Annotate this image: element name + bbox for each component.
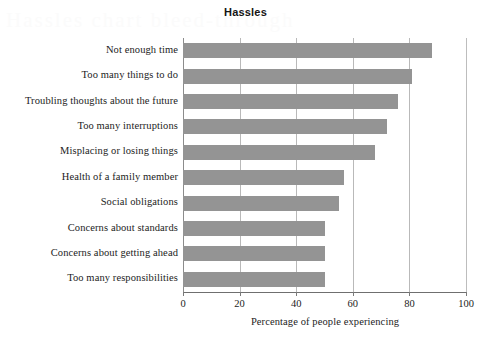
bar [183, 43, 432, 58]
bar [183, 246, 325, 261]
category-label: Misplacing or losing things [2, 145, 178, 156]
x-tick-label-100: 100 [446, 298, 486, 309]
x-tick-label-60: 60 [333, 298, 373, 309]
category-label: Too many interruptions [2, 120, 178, 131]
category-label: Troubling thoughts about the future [2, 95, 178, 106]
category-label: Concerns about getting ahead [2, 247, 178, 258]
bar [183, 145, 375, 160]
bar [183, 69, 412, 84]
bar [183, 170, 344, 185]
x-tick-100 [466, 292, 467, 296]
category-label: Too many things to do [2, 69, 178, 80]
x-tick-label-20: 20 [220, 298, 260, 309]
x-tick-40 [296, 292, 297, 296]
bar [183, 196, 339, 211]
bar [183, 119, 387, 134]
chart-title: Hassles [0, 6, 491, 18]
category-label: Not enough time [2, 44, 178, 55]
x-axis-line [183, 292, 467, 293]
category-label: Too many responsibilities [2, 272, 178, 283]
bar [183, 272, 325, 287]
x-tick-20 [240, 292, 241, 296]
category-axis-labels: Not enough timeToo many things to doTrou… [0, 38, 178, 292]
x-tick-0 [183, 292, 184, 296]
category-label: Health of a family member [2, 171, 178, 182]
bar [183, 94, 398, 109]
x-tick-label-80: 80 [389, 298, 429, 309]
x-axis-title: Percentage of people experiencing [183, 316, 467, 327]
x-tick-80 [409, 292, 410, 296]
category-label: Concerns about standards [2, 222, 178, 233]
gridline-100 [466, 38, 467, 292]
x-tick-60 [353, 292, 354, 296]
x-tick-label-40: 40 [276, 298, 316, 309]
plot-area [183, 38, 466, 292]
category-label: Social obligations [2, 196, 178, 207]
hassles-bar-chart: Hassles chart bleed-through Hassles Not … [0, 0, 491, 343]
x-tick-label-0: 0 [163, 298, 203, 309]
bar [183, 221, 325, 236]
